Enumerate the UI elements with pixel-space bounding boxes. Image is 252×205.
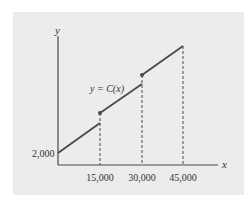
chart-svg: y x y = C(x) 2,000 15,000 30,000 45,000 — [0, 0, 252, 205]
curve-label: y = C(x) — [89, 83, 125, 95]
y-tick-2000: 2,000 — [32, 148, 55, 159]
closed-dot-30000 — [140, 73, 144, 77]
x-tick-30000: 30,000 — [128, 172, 156, 183]
x-tick-15000: 15,000 — [86, 172, 114, 183]
x-tick-45000: 45,000 — [169, 172, 197, 183]
y-axis-label: y — [54, 24, 60, 36]
segment-3 — [142, 46, 183, 75]
segment-1 — [58, 123, 100, 153]
closed-dot-15000 — [98, 111, 102, 115]
x-axis-label: x — [221, 158, 227, 170]
